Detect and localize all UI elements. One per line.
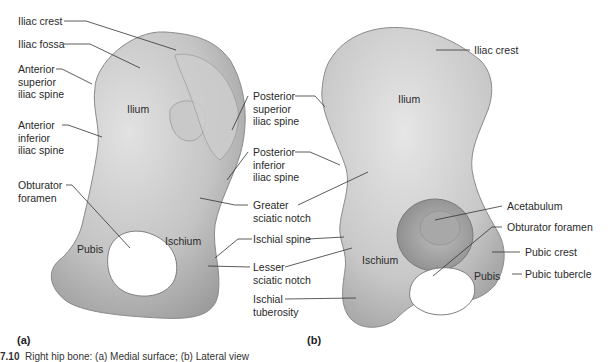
label-obturator-foramen-a: Obturator foramen	[18, 179, 62, 204]
panel-tag-a: (a)	[17, 334, 30, 346]
region-pubis-a: Pubis	[77, 243, 103, 255]
label-ischial-spine: Ischial spine	[253, 233, 311, 246]
label-posterior-superior-iliac-spine: Posterior superior iliac spine	[253, 90, 299, 128]
label-posterior-inferior-iliac-spine: Posterior inferior iliac spine	[253, 146, 299, 184]
panel-tag-b: (b)	[307, 334, 321, 346]
label-ischial-tuberosity: Ischial tuberosity	[253, 293, 299, 318]
label-anterior-superior-iliac-spine: Anterior superior iliac spine	[18, 63, 64, 101]
bone-medial-view	[51, 32, 245, 318]
label-iliac-crest-b: Iliac crest	[474, 44, 518, 57]
label-pubic-crest: Pubic crest	[525, 246, 577, 259]
caption-number: 7.10	[0, 351, 19, 362]
label-greater-sciatic-notch: Greater sciatic notch	[253, 199, 311, 224]
bone-lateral-view	[322, 27, 504, 327]
region-ilium-a: Ilium	[127, 103, 149, 115]
label-iliac-fossa: Iliac fossa	[18, 38, 65, 51]
label-obturator-foramen-b: Obturator foramen	[507, 221, 593, 234]
figure-caption: 7.10 Right hip bone: (a) Medial surface;…	[0, 351, 249, 362]
region-ilium-b: Ilium	[398, 93, 420, 105]
label-pubic-tubercle: Pubic tubercle	[525, 268, 592, 281]
caption-text: Right hip bone: (a) Medial surface; (b) …	[25, 351, 249, 362]
label-lesser-sciatic-notch: Lesser sciatic notch	[253, 261, 311, 286]
region-ischium-a: Ischium	[165, 235, 201, 247]
label-acetabulum: Acetabulum	[507, 200, 562, 213]
region-ischium-b: Ischium	[362, 254, 398, 266]
label-iliac-crest-a: Iliac crest	[18, 15, 62, 28]
label-anterior-inferior-iliac-spine: Anterior inferior iliac spine	[18, 119, 64, 157]
region-pubis-b: Pubis	[474, 270, 500, 282]
